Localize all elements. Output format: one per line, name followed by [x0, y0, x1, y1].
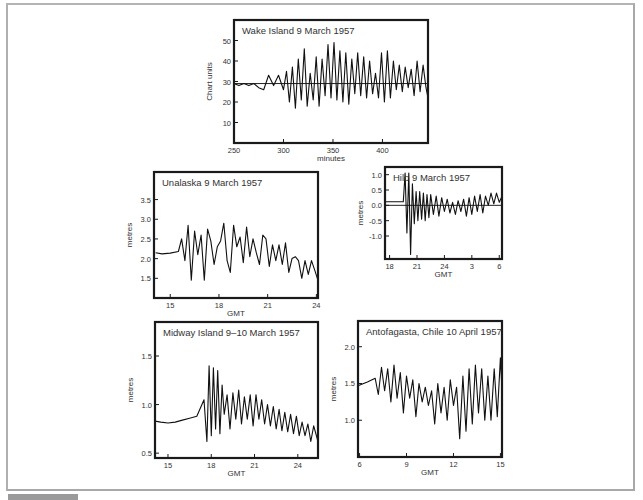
x-axis-label: GMT — [421, 468, 439, 477]
x-tick-label: 300 — [277, 146, 290, 155]
plot-frame — [234, 20, 428, 143]
x-tick-label: 21 — [250, 461, 258, 470]
x-tick-label: 15 — [496, 460, 504, 469]
y-axis-label: metres — [356, 201, 365, 225]
x-tick-label: 21 — [413, 262, 421, 271]
y-tick-label: 1.5 — [142, 352, 152, 361]
chart-title: Hilo 9 March 1957 — [393, 172, 470, 183]
x-tick-label: 6 — [497, 262, 501, 271]
x-tick-label: 24 — [312, 301, 320, 310]
x-tick-label: 18 — [385, 262, 393, 271]
x-tick-label: 21 — [263, 301, 271, 310]
chart-midway: Midway Island 9–10 March 19570.51.01.515… — [126, 322, 318, 478]
y-tick-label: 0.5 — [142, 449, 152, 458]
x-axis-label: GMT — [435, 270, 453, 279]
y-tick-label: 2.0 — [345, 343, 355, 352]
y-tick-label: 20 — [223, 98, 231, 107]
y-axis-label: metres — [126, 378, 135, 402]
x-tick-label: 24 — [294, 461, 302, 470]
tide-gauge-figure: Wake Island 9 March 19571020304050250300… — [0, 0, 643, 500]
chart-unalaska: Unalaska 9 March 19571.52.02.53.03.51518… — [125, 172, 321, 318]
x-axis-label: GMT — [228, 469, 246, 478]
x-tick-label: 15 — [164, 461, 172, 470]
data-trace — [156, 223, 318, 280]
chart-hilo: Hilo 9 March 1957-1.0-0.50.00.51.0182124… — [356, 167, 502, 279]
x-tick-label: 6 — [357, 460, 361, 469]
y-axis-label: metres — [329, 377, 338, 401]
x-tick-label: 18 — [215, 301, 223, 310]
plot-frame — [155, 322, 318, 458]
chart-antofagasta: Antofagasta, Chile 10 April 19571.01.52.… — [329, 321, 505, 477]
x-tick-label: 12 — [449, 460, 457, 469]
y-tick-label: 10 — [223, 119, 231, 128]
chart-title: Unalaska 9 March 1957 — [162, 177, 262, 188]
y-tick-label: 30 — [223, 78, 231, 87]
y-tick-label: 3.5 — [141, 196, 151, 205]
x-tick-label: 15 — [166, 301, 174, 310]
data-trace — [358, 358, 502, 439]
y-tick-label: 0.0 — [372, 201, 382, 210]
x-axis-label: GMT — [227, 309, 245, 318]
x-tick-label: 250 — [228, 146, 241, 155]
data-trace — [155, 366, 318, 442]
y-tick-label: -0.5 — [369, 217, 382, 226]
y-tick-label: 2.0 — [141, 255, 151, 264]
y-axis-label: metres — [125, 223, 134, 247]
plot-frame — [154, 172, 318, 298]
y-tick-label: 1.5 — [141, 274, 151, 283]
data-trace — [234, 43, 428, 109]
y-tick-label: 3.0 — [141, 215, 151, 224]
y-tick-label: 1.0 — [142, 401, 152, 410]
y-tick-label: 0.5 — [372, 186, 382, 195]
x-tick-label: 3 — [470, 262, 474, 271]
y-axis-label: Chart units — [205, 62, 214, 101]
chart-title: Antofagasta, Chile 10 April 1957 — [366, 326, 502, 337]
chart-title: Midway Island 9–10 March 1957 — [163, 327, 300, 338]
y-tick-label: 1.5 — [345, 379, 355, 388]
y-tick-label: 50 — [223, 37, 231, 46]
y-tick-label: -1.0 — [369, 232, 382, 241]
x-tick-label: 9 — [404, 460, 408, 469]
y-tick-label: 1.0 — [345, 416, 355, 425]
y-tick-label: 1.0 — [372, 171, 382, 180]
x-tick-label: 18 — [207, 461, 215, 470]
chart-title: Wake Island 9 March 1957 — [242, 25, 355, 36]
data-trace — [385, 173, 502, 254]
y-tick-label: 2.5 — [141, 235, 151, 244]
y-tick-label: 40 — [223, 57, 231, 66]
x-tick-label: 400 — [376, 146, 389, 155]
chart-wake: Wake Island 9 March 19571020304050250300… — [205, 20, 428, 163]
x-axis-label: minutes — [317, 154, 345, 163]
